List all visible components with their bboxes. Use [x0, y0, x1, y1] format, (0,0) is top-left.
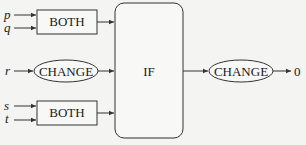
both-top-label: BOTH [49, 14, 84, 29]
change-out-label: CHANGE [214, 64, 268, 79]
both-bottom-label: BOTH [49, 105, 84, 120]
input-r-label: r [5, 63, 11, 78]
input-t-label: t [5, 111, 9, 126]
both-node-top: BOTH [37, 10, 97, 34]
both-node-bottom: BOTH [37, 101, 97, 125]
logic-diagram: p q r s t BOTH CHANGE BOTH IF CHANGE 0 [0, 0, 306, 145]
output-value: 0 [294, 64, 301, 79]
change-node-middle: CHANGE [34, 60, 98, 82]
change-mid-label: CHANGE [39, 64, 93, 79]
if-node: IF [115, 3, 183, 138]
if-label: IF [143, 64, 155, 79]
input-q-label: q [4, 20, 11, 35]
change-node-output: CHANGE [209, 60, 273, 82]
